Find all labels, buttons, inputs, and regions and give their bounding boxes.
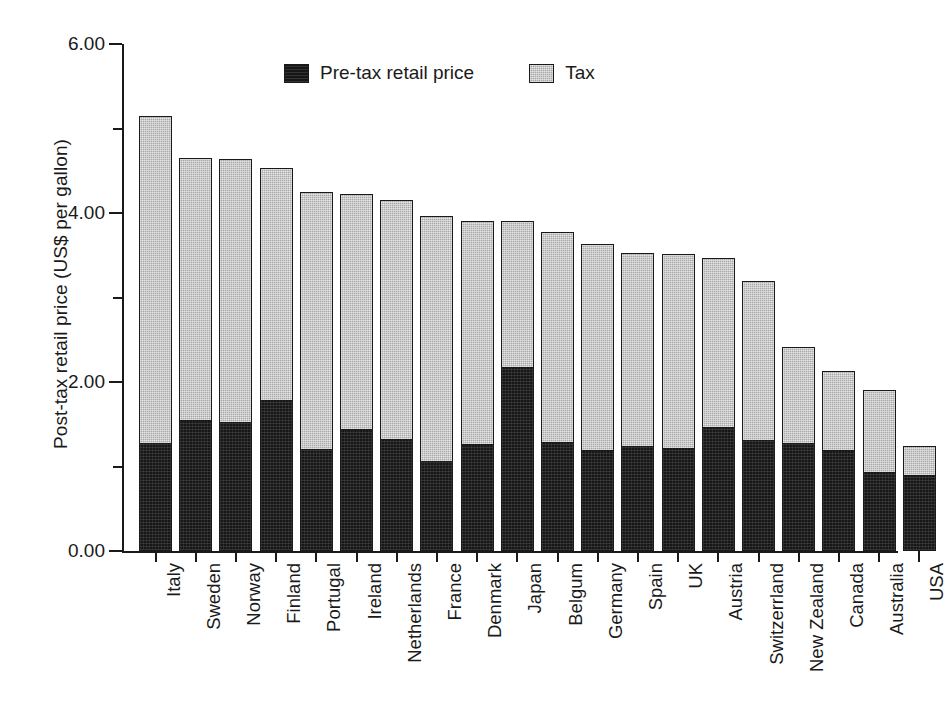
bar-segment-tax[interactable]	[621, 253, 654, 447]
x-axis-tick	[356, 551, 358, 562]
plot-area: 0.002.004.006.00 ItalySwedenNorwayFinlan…	[122, 44, 898, 551]
x-axis-category-label: Finland	[283, 563, 305, 624]
stacked-bar[interactable]	[822, 371, 855, 551]
x-axis-category-label: Austria	[725, 563, 747, 621]
y-axis-tick-major	[109, 212, 122, 214]
bar-segment-tax[interactable]	[903, 446, 936, 476]
stacked-bar[interactable]	[260, 168, 293, 551]
stacked-bar[interactable]	[340, 194, 373, 551]
x-axis-category-label: Switzerrland	[766, 563, 788, 665]
x-axis-category-label: USA	[926, 563, 948, 601]
stacked-bar[interactable]	[742, 281, 775, 551]
y-axis-tick-major	[109, 43, 122, 45]
stacked-bar[interactable]	[501, 221, 534, 551]
bar-segment-tax[interactable]	[782, 347, 815, 443]
stacked-bar[interactable]	[702, 258, 735, 551]
stacked-bar[interactable]	[219, 159, 252, 551]
bar-segment-pre-tax[interactable]	[702, 428, 735, 551]
bar-segment-pre-tax[interactable]	[621, 447, 654, 551]
x-axis-tick	[516, 551, 518, 562]
stacked-bar[interactable]	[300, 192, 333, 551]
bar-segment-tax[interactable]	[702, 258, 735, 429]
bar-segment-tax[interactable]	[179, 158, 212, 421]
x-axis-category-label: Belgum	[565, 563, 587, 626]
bar-segment-pre-tax[interactable]	[179, 421, 212, 551]
bar-segment-tax[interactable]	[742, 281, 775, 441]
stacked-bar[interactable]	[581, 244, 614, 551]
bar-segment-tax[interactable]	[863, 390, 896, 473]
bar-segment-tax[interactable]	[340, 194, 373, 430]
x-axis-tick	[597, 551, 599, 562]
bar-segment-pre-tax[interactable]	[742, 441, 775, 551]
x-axis-category-label: Norway	[243, 563, 265, 626]
stacked-bar[interactable]	[461, 221, 494, 551]
bar-segment-tax[interactable]	[219, 159, 252, 423]
x-axis-tick	[315, 551, 317, 562]
bar-segment-tax[interactable]	[139, 116, 172, 444]
bar-segment-tax[interactable]	[662, 254, 695, 448]
x-axis-category-label: UK	[685, 563, 707, 589]
bar-segment-pre-tax[interactable]	[260, 401, 293, 551]
stacked-bar[interactable]	[863, 390, 896, 551]
bar-segment-tax[interactable]	[541, 232, 574, 442]
x-axis-tick	[717, 551, 719, 562]
x-axis-category-label: Spain	[645, 563, 667, 610]
bar-segment-pre-tax[interactable]	[822, 451, 855, 551]
x-axis-line	[122, 551, 898, 553]
x-axis-category-label: Netherlands	[404, 563, 426, 663]
y-axis-tick-label: 0.00	[68, 540, 105, 562]
bar-segment-pre-tax[interactable]	[581, 451, 614, 551]
x-axis-category-label: Germany	[605, 563, 627, 639]
y-axis-tick-major	[109, 381, 122, 383]
y-axis-tick-minor	[113, 466, 122, 468]
bar-segment-tax[interactable]	[461, 221, 494, 444]
stacked-bar[interactable]	[621, 253, 654, 551]
bar-segment-tax[interactable]	[260, 168, 293, 400]
bar-segment-pre-tax[interactable]	[340, 430, 373, 551]
y-axis-tick-major	[109, 550, 122, 552]
bar-segment-pre-tax[interactable]	[903, 476, 936, 551]
x-axis-tick	[798, 551, 800, 562]
bar-segment-pre-tax[interactable]	[863, 473, 896, 551]
bar-segment-tax[interactable]	[581, 244, 614, 451]
x-axis-category-label: Sweden	[203, 563, 225, 630]
x-axis-tick	[396, 551, 398, 562]
x-axis-tick	[637, 551, 639, 562]
x-axis-category-label: Canada	[846, 563, 868, 628]
x-axis-tick	[436, 551, 438, 562]
bar-segment-pre-tax[interactable]	[662, 449, 695, 551]
x-axis-tick	[677, 551, 679, 562]
bar-segment-pre-tax[interactable]	[501, 368, 534, 551]
x-axis-tick	[838, 551, 840, 562]
bar-segment-tax[interactable]	[380, 200, 413, 441]
stacked-bar[interactable]	[139, 116, 172, 551]
bar-segment-tax[interactable]	[420, 216, 453, 462]
x-axis-tick	[758, 551, 760, 562]
y-axis-line	[122, 44, 124, 552]
stacked-bar[interactable]	[380, 200, 413, 552]
stacked-bar[interactable]	[662, 254, 695, 551]
bar-segment-pre-tax[interactable]	[420, 462, 453, 551]
bar-segment-pre-tax[interactable]	[782, 444, 815, 551]
bar-segment-tax[interactable]	[822, 371, 855, 451]
x-axis-tick	[195, 551, 197, 562]
stacked-bar[interactable]	[541, 232, 574, 551]
x-axis-category-label: Portugal	[323, 563, 345, 632]
stacked-bar[interactable]	[179, 158, 212, 551]
bar-segment-tax[interactable]	[300, 192, 333, 450]
bar-segment-pre-tax[interactable]	[541, 443, 574, 551]
bar-segment-pre-tax[interactable]	[219, 423, 252, 551]
bar-segment-pre-tax[interactable]	[380, 440, 413, 551]
bar-segment-pre-tax[interactable]	[461, 445, 494, 551]
stacked-bar[interactable]	[903, 446, 936, 551]
bar-segment-tax[interactable]	[501, 221, 534, 368]
stacked-bar[interactable]	[782, 347, 815, 551]
x-axis-category-label: Ireland	[364, 563, 386, 620]
x-axis-tick	[235, 551, 237, 562]
bar-segment-pre-tax[interactable]	[300, 450, 333, 551]
x-axis-category-label: Australia	[886, 563, 908, 635]
bar-segment-pre-tax[interactable]	[139, 444, 172, 551]
y-axis-tick-minor	[113, 297, 122, 299]
stacked-bar[interactable]	[420, 216, 453, 551]
